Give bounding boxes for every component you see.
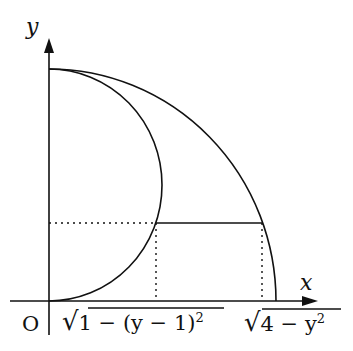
superscript: 2 xyxy=(195,310,203,325)
inner-x-label: √1 − (y − 1)2 xyxy=(62,306,204,336)
x-axis-arrow-icon xyxy=(302,296,318,306)
radical-sign: √ xyxy=(62,306,79,336)
inner-radicand: 1 − (y − 1) xyxy=(79,311,196,335)
outer-radicand: 4 − y xyxy=(261,312,317,336)
superscript: 2 xyxy=(317,311,325,326)
radical-sign: √ xyxy=(244,307,261,337)
origin-label: O xyxy=(22,312,39,336)
outer-x-label: √4 − y2 xyxy=(244,307,325,337)
inner-arc xyxy=(49,69,162,301)
diagram-svg xyxy=(0,0,353,351)
y-axis-arrow-icon xyxy=(44,38,54,53)
y-axis-label: y xyxy=(26,14,38,39)
x-axis-label: x xyxy=(300,270,312,295)
diagram: y x O √1 − (y − 1)2 √4 − y2 xyxy=(0,0,353,351)
